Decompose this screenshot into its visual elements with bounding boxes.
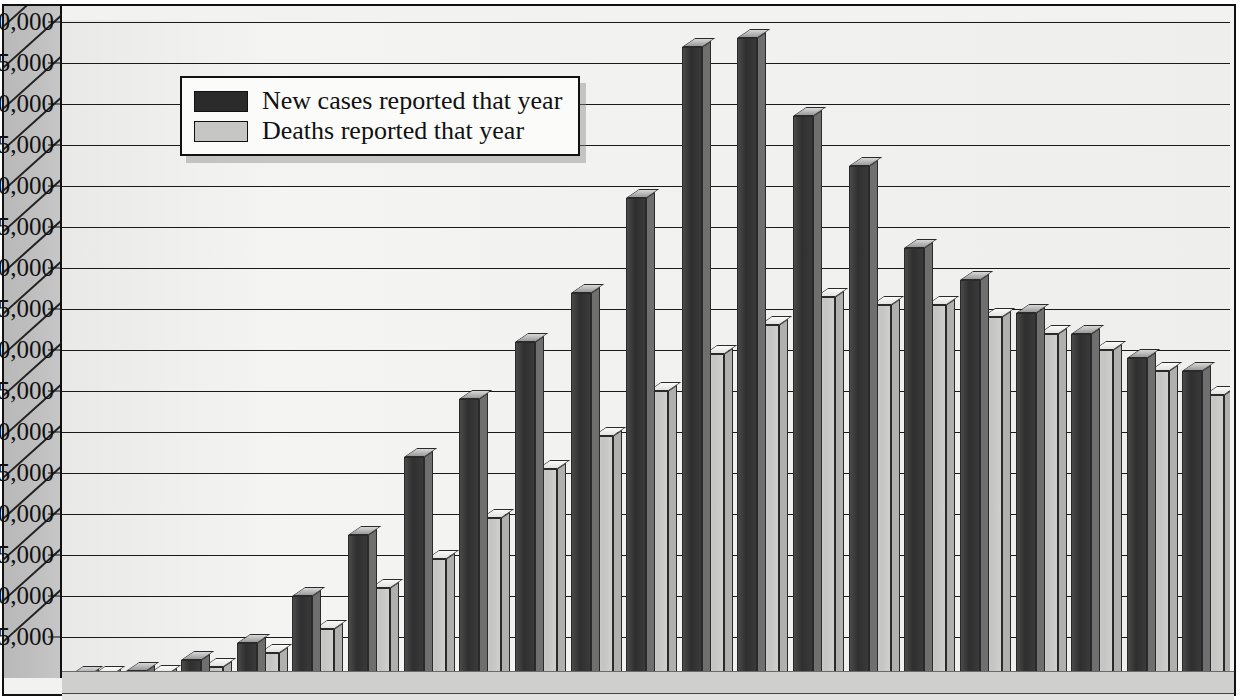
bar-side-face — [613, 430, 622, 678]
bar-side-face — [946, 299, 955, 678]
bar-new-cases-18 — [1016, 313, 1036, 678]
y-axis-tick-label: 25,000 — [0, 459, 54, 487]
gridline — [62, 186, 1230, 187]
bar-new-cases-7 — [404, 457, 424, 678]
bar-new-cases-19 — [1071, 334, 1091, 678]
bar-side-face — [724, 348, 733, 678]
bar-front-face — [737, 38, 757, 678]
bar-side-face — [591, 287, 600, 678]
y-axis-tick-mark — [48, 432, 62, 433]
bar-side-face — [479, 393, 488, 678]
y-axis-tick-label: 70,000 — [0, 90, 54, 118]
y-axis-labels: 5,00010,00015,00020,00025,00030,00035,00… — [0, 0, 62, 700]
bar-side-face — [1058, 328, 1067, 678]
gridline — [62, 22, 1230, 23]
bar-side-face — [1147, 352, 1156, 678]
bar-new-cases-15 — [849, 166, 869, 679]
bar-front-face — [515, 342, 535, 678]
y-axis-tick-mark — [48, 514, 62, 515]
bar-front-face — [459, 399, 479, 678]
bar-new-cases-16 — [904, 248, 924, 679]
bar-side-face — [1113, 344, 1122, 678]
y-axis-tick-label: 60,000 — [0, 172, 54, 200]
legend-label: Deaths reported that year — [262, 116, 524, 146]
y-axis-tick-mark — [48, 350, 62, 351]
bar-front-face — [404, 457, 424, 678]
bar-new-cases-13 — [737, 38, 757, 678]
bar-front-face — [960, 280, 980, 678]
y-axis-tick-label: 35,000 — [0, 377, 54, 405]
bar-new-cases-8 — [459, 399, 479, 678]
bar-front-face — [1182, 371, 1202, 679]
bar-side-face — [557, 463, 566, 678]
bar-front-face — [1127, 358, 1147, 678]
y-axis-tick-mark — [48, 268, 62, 269]
y-axis-tick-label: 5,000 — [0, 623, 54, 651]
bar-side-face — [334, 623, 343, 678]
y-axis-tick-label: 15,000 — [0, 541, 54, 569]
legend-item: New cases reported that year — [194, 86, 562, 116]
bar-side-face — [757, 32, 766, 678]
bar-side-face — [869, 159, 878, 678]
bar-front-face — [571, 293, 591, 678]
bar-front-face — [682, 47, 702, 678]
bar-side-face — [1091, 328, 1100, 678]
bar-side-face — [1169, 364, 1178, 678]
bar-side-face — [646, 192, 655, 678]
bar-front-face — [849, 166, 869, 679]
y-axis-tick-mark — [48, 186, 62, 187]
bar-side-face — [924, 241, 933, 678]
legend-item: Deaths reported that year — [194, 116, 562, 146]
bar-front-face — [1016, 313, 1036, 678]
bar-front-face — [793, 116, 813, 678]
bar-side-face — [535, 336, 544, 678]
y-axis-tick-label: 40,000 — [0, 336, 54, 364]
y-axis-tick-label: 65,000 — [0, 131, 54, 159]
bar-side-face — [1202, 364, 1211, 678]
bar-new-cases-11 — [626, 198, 646, 678]
bar-front-face — [1071, 334, 1091, 678]
bar-new-cases-10 — [571, 293, 591, 678]
bar-side-face — [368, 528, 377, 678]
bar-front-face — [292, 596, 312, 678]
bar-front-face — [904, 248, 924, 679]
y-axis-tick-mark — [48, 555, 62, 556]
y-axis-tick-mark — [48, 63, 62, 64]
y-axis-tick-mark — [48, 22, 62, 23]
y-axis-tick-mark — [48, 637, 62, 638]
legend-swatch-light — [194, 121, 248, 142]
y-axis-tick-label: 20,000 — [0, 500, 54, 528]
y-axis-tick-mark — [48, 473, 62, 474]
legend-label: New cases reported that year — [262, 86, 562, 116]
y-axis-tick-label: 30,000 — [0, 418, 54, 446]
bar-new-cases-5 — [292, 596, 312, 678]
bar-side-face — [1002, 311, 1011, 678]
bar-front-face — [348, 535, 368, 679]
bar-side-face — [446, 553, 455, 678]
bar-side-face — [891, 299, 900, 678]
bar-side-face — [424, 451, 433, 678]
bar-front-face — [626, 198, 646, 678]
bar-new-cases-6 — [348, 535, 368, 679]
y-axis-tick-mark — [48, 227, 62, 228]
y-axis-tick-label: 45,000 — [0, 295, 54, 323]
bar-new-cases-17 — [960, 280, 980, 678]
bar-new-cases-9 — [515, 342, 535, 678]
bar-side-face — [501, 512, 510, 678]
bar-side-face — [668, 385, 677, 678]
bar-side-face — [779, 319, 788, 678]
y-axis-tick-mark — [48, 104, 62, 105]
chart-root: 5,00010,00015,00020,00025,00030,00035,00… — [0, 0, 1240, 700]
y-axis-tick-mark — [48, 391, 62, 392]
bar-new-cases-12 — [682, 47, 702, 678]
legend-swatch-dark — [194, 91, 248, 112]
y-axis-tick-mark — [48, 596, 62, 597]
bar-side-face — [1224, 389, 1230, 678]
y-axis-tick-mark — [48, 145, 62, 146]
y-axis-tick-label: 10,000 — [0, 582, 54, 610]
y-axis-tick-label: 50,000 — [0, 254, 54, 282]
bar-side-face — [835, 291, 844, 678]
bar-side-face — [390, 582, 399, 678]
bar-side-face — [702, 41, 711, 678]
bar-new-cases-14 — [793, 116, 813, 678]
